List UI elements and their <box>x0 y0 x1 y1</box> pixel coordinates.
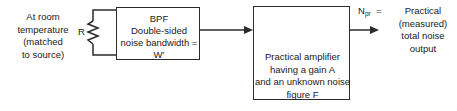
amplifier-block-text: Practical amplifier having a gain A and … <box>254 51 351 101</box>
amplifier-block: Practical amplifier having a gain A and … <box>253 6 350 100</box>
output-description-line: Practical <box>392 5 454 18</box>
output-description-line: total noise <box>392 30 454 43</box>
bpf-block-text: BPF Double-sided noise bandwidth = W' <box>117 13 201 61</box>
output-equals: = <box>376 5 382 16</box>
bpf-line: noise bandwidth = <box>117 37 201 49</box>
output-symbol-label: Npr = <box>358 5 382 16</box>
bpf-block: BPF Double-sided noise bandwidth = W' <box>116 7 200 60</box>
bpf-to-amp-arrowhead <box>244 26 253 34</box>
amp-output-arrowhead <box>370 26 379 34</box>
amplifier-line: figure F <box>254 89 351 102</box>
resistor-loop-wire-bottom <box>93 44 116 55</box>
output-description: Practical (measured) total noise output <box>392 5 454 55</box>
amplifier-line: Practical amplifier <box>254 51 351 64</box>
source-note-line: At room <box>6 11 80 24</box>
source-note-line: to source) <box>6 49 80 62</box>
amplifier-line: having a gain A <box>254 64 351 77</box>
output-description-line: output <box>392 43 454 56</box>
source-temperature-note: At room temperature (matched to source) <box>6 11 80 61</box>
resistor-zigzag-icon <box>88 21 98 44</box>
source-note-line: (matched <box>6 36 80 49</box>
amplifier-line: and an unknown noise <box>254 76 351 89</box>
noise-figure-diagram: At room temperature (matched to source) … <box>0 0 457 111</box>
bpf-line: W' <box>117 49 201 61</box>
output-description-line: (measured) <box>392 18 454 31</box>
bpf-line: BPF <box>117 13 201 25</box>
output-symbol: N <box>358 5 365 16</box>
resistor-label: R <box>78 26 85 37</box>
source-note-line: temperature <box>6 24 80 37</box>
bpf-line: Double-sided <box>117 25 201 37</box>
output-subscript: pr <box>365 10 371 17</box>
resistor-loop-wire <box>93 10 116 21</box>
